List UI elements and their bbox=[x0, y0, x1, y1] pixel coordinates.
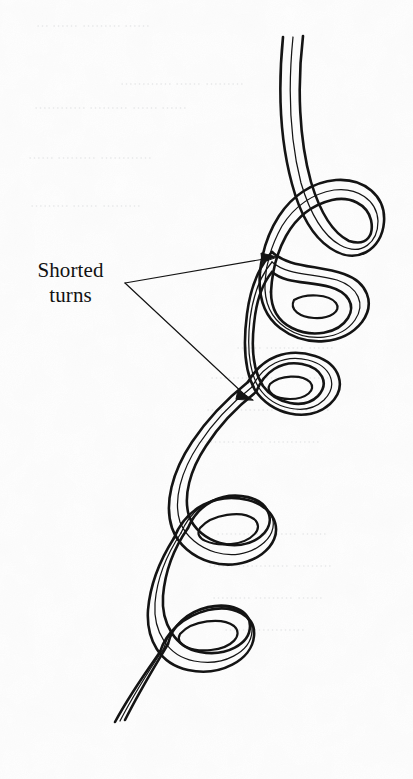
coil-lead-bottom-outer bbox=[115, 652, 160, 722]
coil-turn-4-eye bbox=[198, 514, 258, 544]
coil-wire bbox=[115, 36, 384, 722]
leader-line-lower bbox=[125, 283, 246, 396]
figure-container: ⋯ ⋯⋯ ⋯⋯⋯ ⋯⋯ ⋯⋯⋯⋯ ⋯⋯ ⋯⋯⋯ ⋯⋯⋯⋯ ⋯⋯⋯ ⋯⋯ ⋯⋯ ⋯… bbox=[0, 0, 413, 779]
callout-label-line-1: Shorted bbox=[18, 258, 123, 283]
callout-label: Shorted turns bbox=[18, 258, 123, 308]
coil-lead-bottom-highlight bbox=[120, 648, 164, 721]
leader-line-upper bbox=[125, 258, 270, 283]
coil-drawing bbox=[0, 0, 413, 779]
coil-turn-3-eye bbox=[269, 377, 312, 399]
coil-turn-2-eye bbox=[293, 295, 338, 318]
coil-turn-5-eye bbox=[179, 621, 238, 650]
callout-label-line-2: turns bbox=[18, 283, 123, 308]
coil-turn-1-outer-edge bbox=[260, 37, 384, 272]
coil-lead-bottom-inner bbox=[125, 644, 168, 720]
